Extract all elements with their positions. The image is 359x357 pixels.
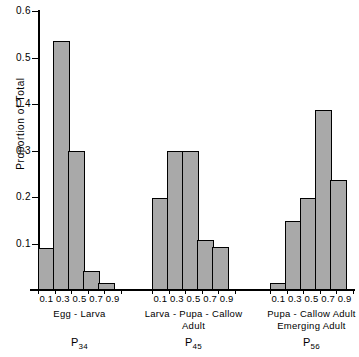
caption-line: Adult bbox=[130, 320, 257, 332]
y-axis-label: Proportion of Total bbox=[15, 44, 26, 204]
x-tick-labels-P56: 0.10.30.50.70.9 bbox=[270, 293, 353, 304]
x-tick-labels-P34: 0.10.30.50.70.9 bbox=[38, 293, 121, 304]
bar bbox=[330, 180, 347, 290]
x-tick-label: 0.5 bbox=[185, 293, 202, 304]
group-caption-P56: Pupa - Callow AdultEmerging Adult bbox=[248, 308, 359, 332]
group-p-label-P56: P56 bbox=[270, 336, 353, 351]
group-p-label-P34: P34 bbox=[38, 336, 121, 351]
p-subscript: 34 bbox=[79, 342, 89, 351]
p-letter: P bbox=[303, 336, 311, 348]
y-tick-label: 0.2 bbox=[16, 191, 31, 202]
y-tick-label: 0.3 bbox=[16, 145, 31, 156]
x-tick-label: 0.7 bbox=[202, 293, 219, 304]
x-tick-label: 0.3 bbox=[169, 293, 186, 304]
x-tick-label: 0.3 bbox=[287, 293, 304, 304]
p-subscript: 56 bbox=[311, 342, 321, 351]
x-tick-label: 0.1 bbox=[270, 293, 287, 304]
group-caption-P45: Larva - Pupa - CallowAdult bbox=[130, 308, 257, 332]
caption-line: Emerging Adult bbox=[248, 320, 359, 332]
x-tick-labels-P45: 0.10.30.50.70.9 bbox=[152, 293, 235, 304]
y-tick-label: 0.6 bbox=[16, 5, 31, 16]
x-tick bbox=[235, 289, 236, 294]
x-tick-label: 0.7 bbox=[320, 293, 337, 304]
bar bbox=[212, 247, 229, 290]
group-p-label-P45: P45 bbox=[152, 336, 235, 351]
x-tick-label: 0.1 bbox=[152, 293, 169, 304]
p-letter: P bbox=[71, 336, 79, 348]
caption-line: Pupa - Callow Adult bbox=[248, 308, 359, 320]
caption-line: Egg - Larva bbox=[16, 308, 143, 320]
bar-group-P56 bbox=[270, 11, 353, 290]
x-tick-label: 0.5 bbox=[71, 293, 88, 304]
x-tick-label: 0.9 bbox=[336, 293, 353, 304]
x-tick-label: 0.7 bbox=[88, 293, 105, 304]
p-subscript: 45 bbox=[193, 342, 203, 351]
x-tick-label: 0.9 bbox=[104, 293, 121, 304]
p-letter: P bbox=[185, 336, 193, 348]
bar-group-P45 bbox=[152, 11, 235, 290]
x-tick-label: 0.3 bbox=[55, 293, 72, 304]
y-tick-label: 0.5 bbox=[16, 52, 31, 63]
y-tick-label: 0.4 bbox=[16, 98, 31, 109]
x-tick bbox=[121, 289, 122, 294]
x-tick bbox=[353, 289, 354, 294]
bar-chart: Proportion of Total 0.60.50.40.30.20.1 0… bbox=[0, 0, 359, 357]
bar bbox=[98, 283, 115, 290]
bar-group-P34 bbox=[38, 11, 121, 290]
x-tick-label: 0.9 bbox=[218, 293, 235, 304]
x-tick-label: 0.5 bbox=[303, 293, 320, 304]
y-tick-label: 0.1 bbox=[16, 238, 31, 249]
x-tick-label: 0.1 bbox=[38, 293, 55, 304]
bar bbox=[68, 151, 85, 291]
group-caption-P34: Egg - Larva bbox=[16, 308, 143, 320]
caption-line: Larva - Pupa - Callow bbox=[130, 308, 257, 320]
